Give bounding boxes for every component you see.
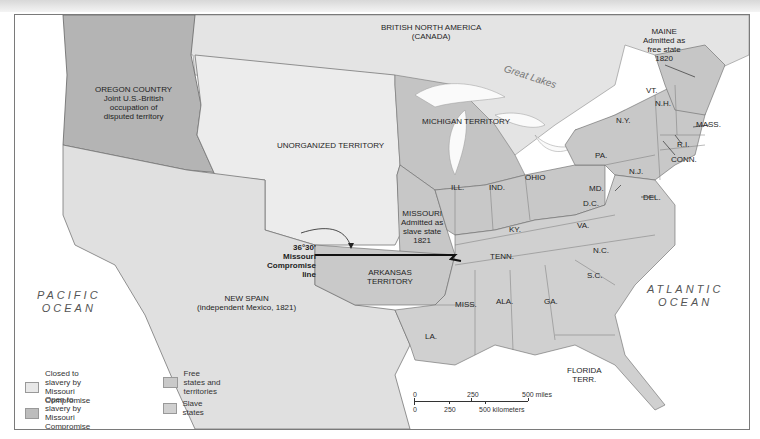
label-line: PACIFIC <box>37 289 101 302</box>
label-oregon-country: OREGON COUNTRY Joint U.S.-British occupa… <box>95 85 172 121</box>
scale-tick <box>528 398 529 401</box>
label-michigan-territory: MICHIGAN TERRITORY <box>422 117 510 126</box>
label-state-md: MD. <box>589 184 604 193</box>
scale-tick <box>414 398 415 405</box>
legend-item-open: Open to slavery by Missouri Compromise <box>25 395 96 430</box>
label-state-ind: IND. <box>489 183 505 192</box>
label-state-ala: ALA. <box>496 297 513 306</box>
label-florida-territory: FLORIDA TERR. <box>567 366 602 384</box>
map-frame: BRITISH NORTH AMERICA (CANADA) OREGON CO… <box>14 14 750 430</box>
label-state-ohio: OHIO <box>525 173 545 182</box>
label-line: OREGON COUNTRY <box>95 85 172 94</box>
label-line: Free states and <box>184 369 223 387</box>
label-state-ga: GA. <box>544 297 558 306</box>
label-line: 1821 <box>401 236 443 245</box>
label-line: occupation of <box>95 103 172 112</box>
label-line: territories <box>184 387 223 396</box>
scale-tick <box>471 398 472 401</box>
label-line: Admitted as <box>643 36 685 45</box>
label-state-dc: D.C. <box>583 199 599 208</box>
label-state-ill: ILL. <box>451 183 464 192</box>
legend-swatch-slave <box>163 403 177 414</box>
label-line: Missouri <box>267 252 316 261</box>
label-line: Joint U.S.-British <box>95 94 172 103</box>
label-line: 1820 <box>643 54 685 63</box>
label-line: Slave states <box>183 399 211 417</box>
label-maine: MAINE Admitted as free state 1820 <box>643 27 685 63</box>
legend-label: Free states and territories <box>184 369 223 396</box>
label-atlantic-ocean: ATLANTIC OCEAN <box>647 283 723 309</box>
label-state-ky: KY. <box>509 225 521 234</box>
label-unorganized-territory: UNORGANIZED TERRITORY <box>277 141 384 150</box>
label-line: disputed territory <box>95 112 172 121</box>
label-line: TERRITORY <box>367 277 413 286</box>
scale-line <box>414 401 528 402</box>
label-line: OCEAN <box>37 302 101 315</box>
label-line: (CANADA) <box>381 32 481 41</box>
label-line: MISSOURI <box>401 209 443 218</box>
legend-swatch-free <box>163 377 178 388</box>
label-state-nc: N.C. <box>593 246 609 255</box>
legend-label: Open to slavery by Missouri Compromise <box>45 395 96 430</box>
label-line: slave state <box>401 227 443 236</box>
map-canvas <box>15 15 749 429</box>
label-line: 36°30' <box>267 243 316 252</box>
label-line: ARKANSAS <box>367 268 413 277</box>
scale-miles-500: 500 miles <box>522 391 552 398</box>
label-line: free state <box>643 45 685 54</box>
label-line: line <box>267 270 316 279</box>
scale-km-500: 500 kilometers <box>479 406 525 413</box>
label-state-del: DEL. <box>643 193 661 202</box>
label-line: Compromise <box>267 261 316 270</box>
label-state-tenn: TENN. <box>490 252 514 261</box>
legend-label: Slave states <box>183 399 211 417</box>
label-state-mass: MASS. <box>696 120 721 129</box>
label-state-vt: VT. <box>646 86 658 95</box>
label-line: Admitted as <box>401 218 443 227</box>
label-line: Missouri Compromise <box>45 413 96 430</box>
label-state-ny: N.Y. <box>616 116 631 125</box>
label-line: MAINE <box>643 27 685 36</box>
scale-tick <box>485 401 486 404</box>
label-state-pa: PA. <box>595 151 607 160</box>
legend-swatch-closed <box>25 382 39 393</box>
legend-item-slave: Slave states <box>163 399 210 417</box>
scale-miles-0: 0 <box>413 391 417 398</box>
label-state-ri: R.I. <box>677 140 689 149</box>
scale-bar: 0 250 500 miles 0 250 500 kilometers <box>413 391 563 421</box>
label-line: FLORIDA <box>567 366 602 375</box>
label-new-spain: NEW SPAIN (independent Mexico, 1821) <box>197 294 296 312</box>
label-state-conn: CONN. <box>671 155 697 164</box>
label-state-nj: N.J. <box>629 167 643 176</box>
label-line: Closed to slavery by <box>45 369 96 387</box>
label-state-nh: N.H. <box>655 99 671 108</box>
label-pacific-ocean: PACIFIC OCEAN <box>37 289 101 315</box>
label-state-va: VA. <box>577 221 589 230</box>
label-british-north-america: BRITISH NORTH AMERICA (CANADA) <box>381 23 481 41</box>
label-line: OCEAN <box>647 296 723 309</box>
scale-km-0: 0 <box>413 406 417 413</box>
label-arkansas-territory: ARKANSAS TERRITORY <box>367 268 413 286</box>
label-missouri-compromise-line: 36°30' Missouri Compromise line <box>267 243 316 279</box>
label-missouri: MISSOURI Admitted as slave state 1821 <box>401 209 443 245</box>
scale-miles-250: 250 <box>467 391 479 398</box>
label-line: BRITISH NORTH AMERICA <box>381 23 481 32</box>
scale-tick <box>449 401 450 404</box>
label-line: ATLANTIC <box>647 283 723 296</box>
label-state-miss: MISS. <box>455 300 477 309</box>
label-line: TERR. <box>567 375 602 384</box>
label-line: Open to slavery by <box>45 395 96 413</box>
label-line: (independent Mexico, 1821) <box>197 303 296 312</box>
label-state-sc: S.C. <box>587 271 603 280</box>
top-header-bar <box>0 0 760 12</box>
scale-km-250: 250 <box>444 406 456 413</box>
label-state-la: LA. <box>425 332 437 341</box>
legend-item-free: Free states and territories <box>163 369 222 396</box>
label-line: NEW SPAIN <box>197 294 296 303</box>
legend-swatch-open <box>25 408 39 419</box>
